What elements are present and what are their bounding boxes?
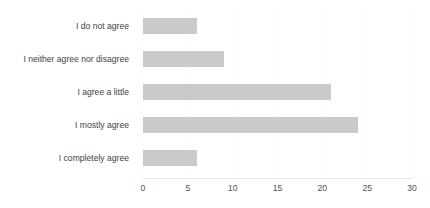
x-tick-label: 25 <box>355 182 379 194</box>
gridline-25 <box>367 10 368 178</box>
gridline-30 <box>412 10 413 178</box>
plot-area <box>143 10 412 178</box>
category-label: I do not agree <box>76 18 129 34</box>
x-tick-label: 0 <box>131 182 155 194</box>
x-tick-label: 30 <box>400 182 424 194</box>
bar <box>143 150 197 166</box>
category-label: I mostly agree <box>75 117 129 133</box>
bar <box>143 84 331 100</box>
bar <box>143 51 224 67</box>
category-label: I completely agree <box>59 150 129 166</box>
category-label: I neither agree nor disagree <box>23 51 129 67</box>
x-axis-tick-labels: 051015202530 <box>0 182 430 198</box>
x-axis-line <box>143 178 412 179</box>
x-tick-label: 20 <box>310 182 334 194</box>
y-axis-category-labels: I do not agreeI neither agree nor disagr… <box>0 10 137 178</box>
x-tick-label: 5 <box>176 182 200 194</box>
bar-chart: I do not agreeI neither agree nor disagr… <box>0 0 430 208</box>
category-label: I agree a little <box>77 84 129 100</box>
bar <box>143 18 197 34</box>
bar <box>143 117 358 133</box>
x-tick-label: 15 <box>266 182 290 194</box>
x-tick-label: 10 <box>221 182 245 194</box>
